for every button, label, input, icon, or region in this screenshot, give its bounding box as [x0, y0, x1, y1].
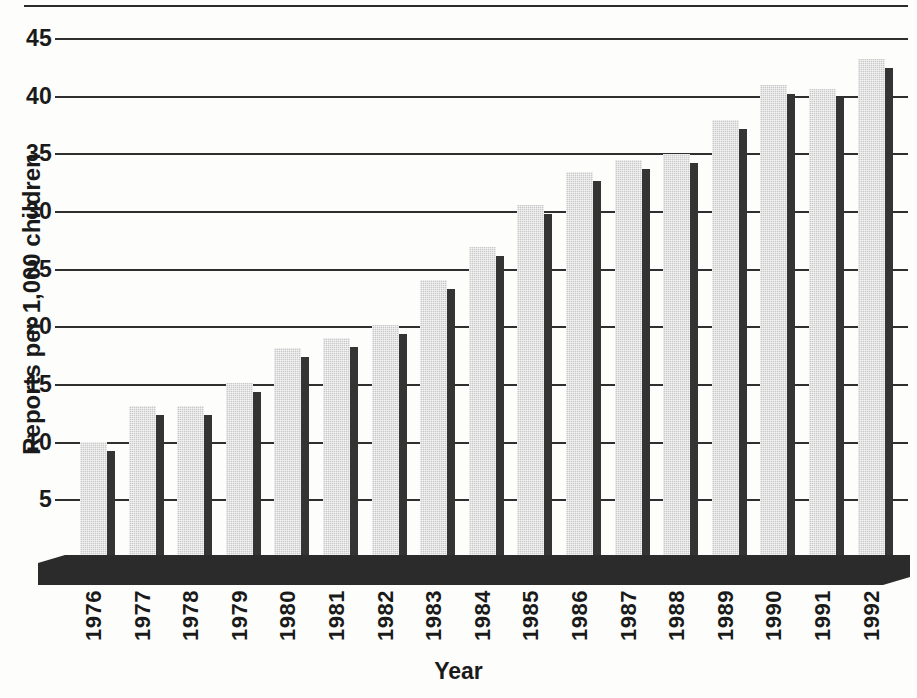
- bar-side-shadow: [593, 181, 601, 566]
- bar-1992: [858, 59, 885, 557]
- x-tick-label-1986: 1986: [567, 590, 593, 641]
- y-tick-40: [55, 96, 68, 98]
- bar-1981: [323, 338, 350, 557]
- bar-side-shadow: [399, 334, 407, 566]
- bar-side-shadow: [690, 163, 698, 566]
- bar-1979: [226, 383, 253, 557]
- bar-face: [712, 120, 739, 557]
- x-tick-label-1983: 1983: [421, 590, 447, 641]
- bar-1991: [809, 89, 836, 557]
- y-tick-15: [55, 384, 68, 386]
- x-tick-label-1989: 1989: [713, 590, 739, 641]
- x-tick-label-1979: 1979: [227, 590, 253, 641]
- x-tick-label-1978: 1978: [178, 590, 204, 641]
- bar-side-shadow: [544, 214, 552, 566]
- bar-side-shadow: [739, 129, 747, 566]
- y-tick-30: [55, 211, 68, 213]
- bar-face: [809, 89, 836, 557]
- x-tick-label-1990: 1990: [761, 590, 787, 641]
- bar-chart-figure: 51015202530354045 1976197719781979198019…: [0, 0, 917, 698]
- y-tick-45: [55, 38, 68, 40]
- bar-face: [129, 406, 156, 557]
- bar-side-shadow: [156, 415, 164, 566]
- plot-area: 51015202530354045 1976197719781979198019…: [0, 0, 917, 600]
- bar-face: [760, 85, 787, 557]
- bar-side-shadow: [301, 357, 309, 566]
- bar-1990: [760, 85, 787, 557]
- bar-side-shadow: [204, 415, 212, 566]
- bar-face: [226, 383, 253, 557]
- bar-side-shadow: [836, 98, 844, 566]
- x-tick-label-1980: 1980: [275, 590, 301, 641]
- x-tick-label-1982: 1982: [373, 590, 399, 641]
- bar-1978: [177, 406, 204, 557]
- y-tick-35: [55, 153, 68, 155]
- x-tick-label-1992: 1992: [859, 590, 885, 641]
- y-tick-10: [55, 442, 68, 444]
- bar-side-shadow: [787, 94, 795, 566]
- bar-face: [663, 154, 690, 557]
- y-gridline-45: [68, 38, 908, 40]
- y-tick-20: [55, 326, 68, 328]
- bar-1987: [615, 160, 642, 557]
- bar-1976: [80, 442, 107, 557]
- bar-1982: [372, 325, 399, 557]
- bar-side-shadow: [885, 68, 893, 566]
- bar-side-shadow: [496, 256, 504, 566]
- bar-side-shadow: [253, 392, 261, 566]
- x-tick-label-1977: 1977: [130, 590, 156, 641]
- y-axis-title: Reports per 1,000 children: [18, 104, 46, 504]
- y-tick-label-45: 45: [26, 25, 52, 52]
- bar-face: [615, 160, 642, 557]
- bar-1989: [712, 120, 739, 557]
- y-tick-25: [55, 269, 68, 271]
- bar-1983: [420, 280, 447, 557]
- bar-side-shadow: [350, 347, 358, 566]
- x-tick-label-1976: 1976: [81, 590, 107, 641]
- bar-face: [80, 442, 107, 557]
- bar-face: [858, 59, 885, 557]
- bar-side-shadow: [107, 451, 115, 566]
- bar-1986: [566, 172, 593, 557]
- bar-1984: [469, 247, 496, 557]
- x-tick-label-1981: 1981: [324, 590, 350, 641]
- bar-face: [517, 205, 544, 557]
- bar-1988: [663, 154, 690, 557]
- bar-side-shadow: [447, 289, 455, 566]
- bar-1977: [129, 406, 156, 557]
- x-tick-label-1984: 1984: [470, 590, 496, 641]
- y-gridline-5: [55, 499, 68, 501]
- bar-face: [177, 406, 204, 557]
- x-axis-title: Year: [0, 658, 917, 685]
- x-tick-label-1988: 1988: [664, 590, 690, 641]
- bar-face: [372, 325, 399, 557]
- x-tick-label-1985: 1985: [518, 590, 544, 641]
- bar-face: [469, 247, 496, 557]
- bar-face: [566, 172, 593, 557]
- x-tick-label-1991: 1991: [810, 590, 836, 641]
- bar-face: [274, 348, 301, 557]
- bar-1985: [517, 205, 544, 557]
- bar-1980: [274, 348, 301, 557]
- bar-side-shadow: [642, 169, 650, 566]
- bar-face: [420, 280, 447, 557]
- x-tick-label-1987: 1987: [616, 590, 642, 641]
- chart-base-platform: [38, 555, 910, 585]
- bar-face: [323, 338, 350, 557]
